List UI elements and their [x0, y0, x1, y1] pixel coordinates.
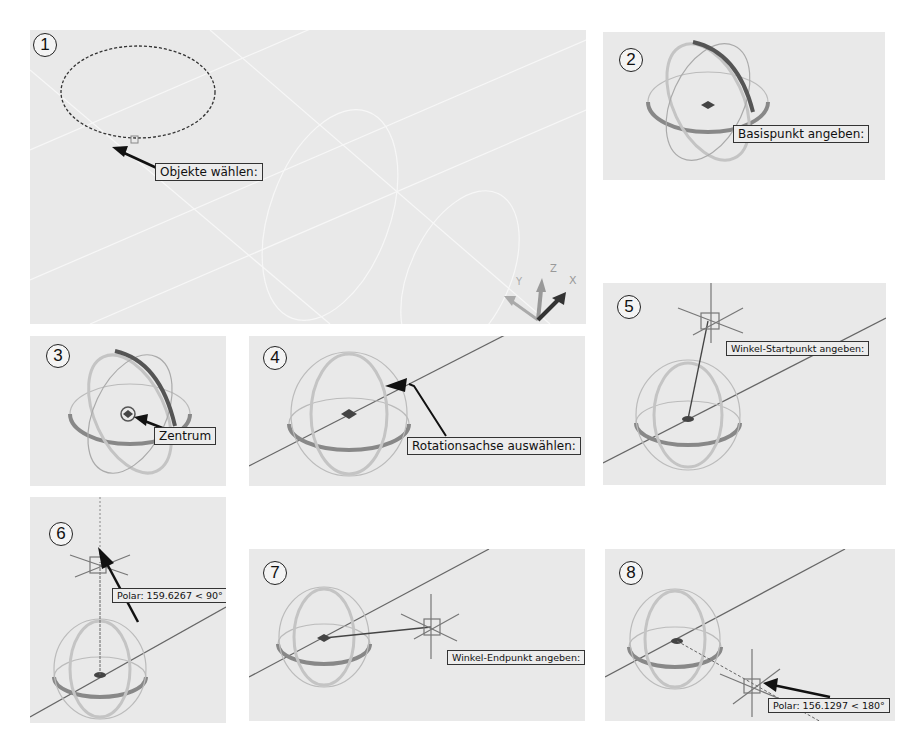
- step-number: 1: [33, 33, 57, 57]
- viewport-drawing: Z Y X: [30, 30, 586, 324]
- rotation-axis-line: [30, 607, 226, 717]
- selected-circle[interactable]: [61, 46, 215, 138]
- prompt-tooltip: Zentrum: [154, 427, 216, 445]
- step-number: 6: [49, 522, 73, 546]
- step-number: 7: [263, 561, 287, 585]
- prompt-tooltip: Objekte wählen:: [155, 163, 263, 181]
- rotate-gizmo: [605, 549, 895, 721]
- step-number: 5: [617, 295, 641, 319]
- panel-step-3: 3 Zentrum: [30, 336, 226, 486]
- rotate-gizmo: [249, 549, 585, 721]
- step-number: 2: [619, 48, 643, 72]
- svg-text:Z: Z: [550, 263, 557, 274]
- step-number: 8: [619, 561, 643, 585]
- panel-step-7: 7 Winkel-Endpunkt angeben:: [249, 549, 585, 721]
- prompt-tooltip: Rotationsachse auswählen:: [407, 437, 581, 455]
- svg-text:X: X: [569, 274, 577, 287]
- rotate-gizmo: [603, 283, 886, 485]
- rotate-gizmo: [603, 32, 885, 180]
- prompt-tooltip: Polar: 159.6267 < 90°: [112, 588, 226, 603]
- panel-step-5: 5 Winkel-Startpunkt angeben:: [603, 283, 886, 485]
- step-number: 3: [46, 344, 70, 368]
- crosshair-cursor: [678, 283, 743, 343]
- prompt-tooltip: Basispunkt angeben:: [733, 125, 869, 143]
- panel-step-4: 4 Rotationsachse auswählen:: [249, 336, 585, 486]
- panel-step-8: 8 Polar: 156.1297 < 180°: [605, 549, 895, 721]
- rotate-gizmo: [249, 336, 585, 486]
- pick-cursor: [131, 136, 138, 143]
- prompt-tooltip: Winkel-Startpunkt angeben:: [726, 341, 869, 356]
- rotation-axis-line: [603, 318, 886, 463]
- prompt-tooltip: Polar: 156.1297 < 180°: [768, 698, 890, 713]
- svg-text:Y: Y: [515, 276, 523, 287]
- panel-step-1: Z Y X 1 Objekte wählen:: [30, 30, 586, 324]
- panel-step-2: 2 Basispunkt angeben:: [603, 32, 885, 180]
- step-number: 4: [263, 346, 287, 370]
- prompt-tooltip: Winkel-Endpunkt angeben:: [447, 650, 585, 665]
- panel-step-6: 6 Polar: 159.6267 < 90°: [30, 497, 226, 723]
